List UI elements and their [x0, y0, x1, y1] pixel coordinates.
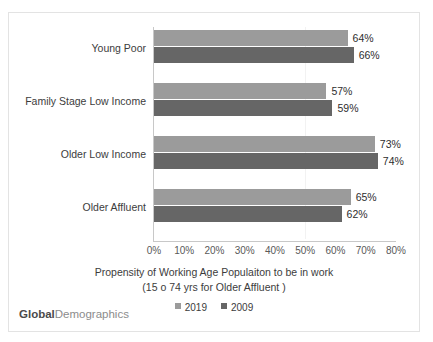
legend-label: 2009 — [231, 302, 253, 313]
x-tick-label: 0% — [147, 245, 161, 256]
legend-swatch-icon — [221, 303, 227, 309]
bar-2009: 66% — [154, 47, 354, 63]
bar-value-label: 74% — [383, 155, 404, 167]
category-label: Young Poor — [92, 42, 147, 54]
bar-value-label: 57% — [331, 85, 352, 97]
bar-value-label: 62% — [347, 208, 368, 220]
watermark-light: Demographics — [55, 308, 129, 320]
category-label: Family Stage Low Income — [25, 95, 146, 107]
bar-group: Older Low Income73%74% — [154, 135, 396, 173]
bar-group: Young Poor64%66% — [154, 29, 396, 67]
legend-item[interactable]: 2009 — [221, 301, 253, 313]
bar-value-label: 66% — [359, 49, 380, 61]
category-label: Older Affluent — [83, 201, 146, 213]
category-label: Older Low Income — [61, 148, 146, 160]
bar-value-label: 64% — [353, 32, 374, 44]
bar-2009: 59% — [154, 100, 332, 116]
bar-value-label: 65% — [356, 191, 377, 203]
x-tick-label: 40% — [265, 245, 285, 256]
bar-value-label: 73% — [380, 138, 401, 150]
x-tick-label: 30% — [235, 245, 255, 256]
x-tick-label: 80% — [386, 245, 406, 256]
legend-item[interactable]: 2019 — [175, 301, 207, 313]
bar-value-label: 59% — [337, 102, 358, 114]
x-tick-label: 60% — [325, 245, 345, 256]
plot-area: Young Poor64%66%Family Stage Low Income5… — [154, 27, 396, 239]
bar-2009: 62% — [154, 206, 342, 222]
bar-2009: 74% — [154, 153, 378, 169]
watermark-bold: Global — [19, 308, 55, 320]
bar-2019: 65% — [154, 189, 351, 205]
x-tick-label: 70% — [356, 245, 376, 256]
bar-group: Family Stage Low Income57%59% — [154, 82, 396, 120]
legend-swatch-icon — [175, 303, 181, 309]
x-axis-line — [153, 241, 396, 242]
bar-2019: 73% — [154, 136, 375, 152]
bar-group: Older Affluent65%62% — [154, 188, 396, 226]
x-axis-title: Propensity of Working Age Populaiton to … — [9, 265, 419, 295]
x-axis-title-line1: Propensity of Working Age Populaiton to … — [9, 265, 419, 280]
bar-2019: 57% — [154, 83, 326, 99]
legend-label: 2019 — [185, 302, 207, 313]
x-tick-label: 10% — [174, 245, 194, 256]
x-tick-label: 50% — [295, 245, 315, 256]
chart-container: Young Poor64%66%Family Stage Low Income5… — [8, 12, 420, 332]
x-axis-title-line2: (15 o 74 yrs for Older Affluent ) — [9, 280, 419, 295]
x-tick-label: 20% — [204, 245, 224, 256]
bar-2019: 64% — [154, 30, 348, 46]
brand-watermark: GlobalDemographics — [19, 308, 129, 320]
